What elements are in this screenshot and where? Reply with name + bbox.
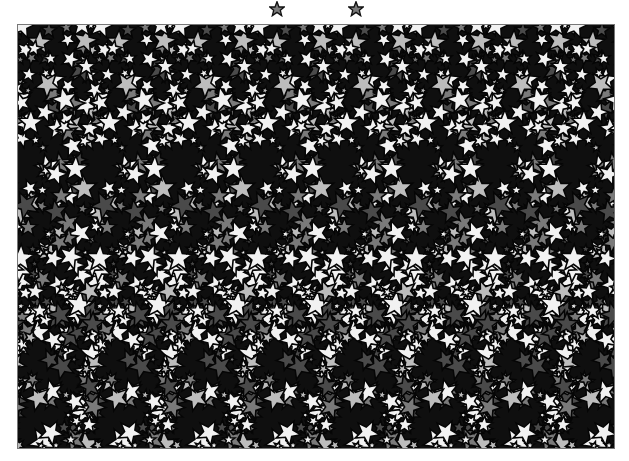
left-guide-star-icon [269, 1, 285, 17]
right-guide-star-icon [348, 1, 364, 17]
stereogram-image [17, 24, 615, 449]
star-pattern [18, 25, 614, 448]
